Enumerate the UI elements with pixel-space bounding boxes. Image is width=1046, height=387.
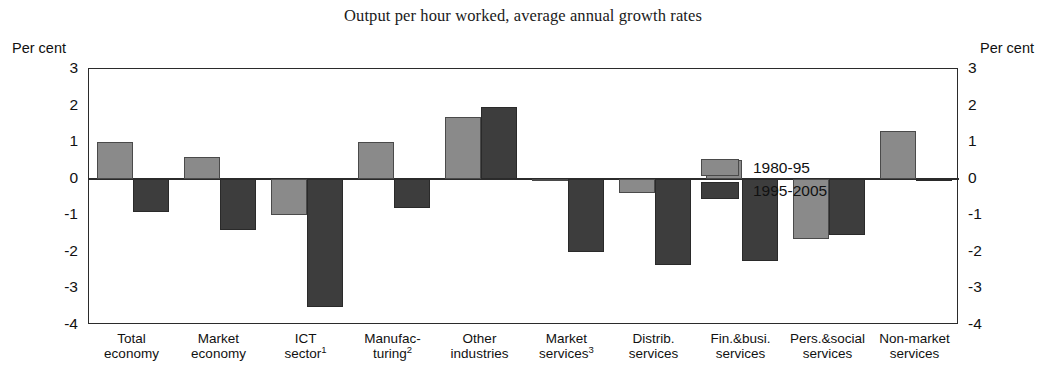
y-tick-label-right: -1 bbox=[968, 206, 982, 222]
bar bbox=[445, 117, 481, 179]
legend-item: 1995-2005 bbox=[701, 180, 827, 201]
y-tick-label-left: -3 bbox=[18, 279, 78, 295]
bar bbox=[307, 179, 343, 307]
y-tick-label-left: 3 bbox=[18, 60, 78, 76]
bar bbox=[532, 179, 568, 181]
chart-legend: 1980-951995-2005 bbox=[701, 157, 827, 203]
bar bbox=[271, 179, 307, 216]
plot-area: 1980-951995-2005 bbox=[88, 68, 958, 324]
legend-swatch-icon bbox=[701, 182, 739, 199]
bar bbox=[481, 107, 517, 178]
bar bbox=[655, 179, 691, 265]
legend-label: 1995-2005 bbox=[753, 182, 827, 200]
bar bbox=[619, 179, 655, 194]
chart-title: Output per hour worked, average annual g… bbox=[0, 6, 1046, 26]
y-tick-label-right: 3 bbox=[968, 60, 977, 76]
legend-swatch-icon bbox=[701, 159, 739, 176]
y-tick-label-right: 1 bbox=[968, 133, 977, 149]
legend-item: 1980-95 bbox=[701, 157, 827, 178]
y-axis-left-caption: Per cent bbox=[12, 40, 66, 56]
bar bbox=[220, 179, 256, 230]
bar bbox=[97, 142, 133, 179]
bar bbox=[133, 179, 169, 212]
bar bbox=[880, 131, 916, 179]
bar bbox=[184, 157, 220, 179]
x-axis-category-label: Non-marketservices bbox=[845, 331, 985, 361]
y-tick-label-left: 2 bbox=[18, 97, 78, 113]
chart-container: Output per hour worked, average annual g… bbox=[0, 0, 1046, 387]
y-tick-label-right: -2 bbox=[968, 243, 982, 259]
y-tick-label-left: 0 bbox=[18, 170, 78, 186]
y-axis-right-caption: Per cent bbox=[980, 40, 1034, 56]
y-tick-label-left: 1 bbox=[18, 133, 78, 149]
bar bbox=[394, 179, 430, 208]
y-tick-label-right: -3 bbox=[968, 279, 982, 295]
bar bbox=[568, 179, 604, 252]
bar bbox=[916, 179, 952, 181]
bar bbox=[358, 142, 394, 179]
legend-label: 1980-95 bbox=[753, 159, 810, 177]
y-tick-label-right: 0 bbox=[968, 170, 977, 186]
y-tick-label-left: -4 bbox=[18, 316, 78, 332]
y-tick-label-right: -4 bbox=[968, 316, 982, 332]
y-tick-label-left: -1 bbox=[18, 206, 78, 222]
y-tick-label-right: 2 bbox=[968, 97, 977, 113]
y-tick-label-left: -2 bbox=[18, 243, 78, 259]
bar bbox=[829, 179, 865, 236]
